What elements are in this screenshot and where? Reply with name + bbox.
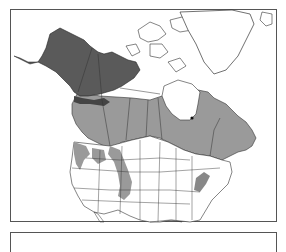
alaska-peninsula: [14, 56, 38, 64]
location-dot: [190, 116, 193, 119]
greenland: [180, 10, 254, 74]
iceland: [260, 12, 272, 26]
legend-frame: [10, 232, 277, 252]
range-dark-north: [38, 28, 140, 96]
